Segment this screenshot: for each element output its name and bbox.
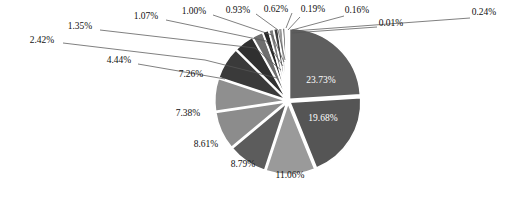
leader-line (286, 13, 292, 28)
pie-data-label: 7.38% (176, 108, 201, 118)
pie-data-label: 0.62% (264, 4, 289, 14)
pie-data-label: 8.79% (231, 159, 256, 169)
pie-data-label: 23.73% (306, 75, 335, 85)
pie-data-label: 1.07% (134, 11, 159, 21)
pie-data-label: 8.61% (194, 139, 219, 149)
pie-data-label: 0.01% (379, 18, 404, 28)
pie-data-label: 2.42% (30, 35, 55, 45)
pie-data-label: 0.19% (301, 4, 326, 14)
pie-slice[interactable] (290, 28, 361, 99)
pie-data-label: 11.06% (276, 170, 305, 180)
pie-data-label: 0.16% (345, 5, 370, 15)
pie-slices-group (215, 28, 361, 174)
pie-data-label: 1.35% (68, 21, 93, 31)
pie-data-label: 0.93% (226, 5, 251, 15)
pie-chart-figure: 23.73%19.68%11.06%8.79%8.61%7.38%7.26%4.… (0, 0, 514, 202)
pie-data-label: 4.44% (107, 55, 132, 65)
pie-data-label: 19.68% (308, 113, 337, 123)
pie-chart-svg: 23.73%19.68%11.06%8.79%8.61%7.38%7.26%4.… (0, 0, 514, 202)
pie-data-label: 7.26% (179, 69, 204, 79)
pie-data-label: 0.24% (472, 7, 497, 17)
pie-data-label: 1.00% (182, 6, 207, 16)
